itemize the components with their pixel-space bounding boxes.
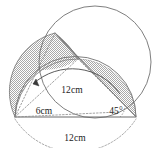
geometry-diagram-canvas: 12cm 6cm 45° 12cm [0,0,163,148]
dotted-radius-leader [15,112,118,117]
geometry-figure: 12cm 6cm 45° 12cm [0,0,163,148]
label-angle-45: 45° [109,106,123,116]
label-radius-left: 6cm [36,106,53,116]
label-base-diameter: 12cm [64,133,86,143]
label-inner-diameter: 12cm [61,85,83,95]
